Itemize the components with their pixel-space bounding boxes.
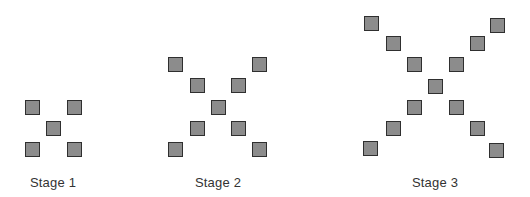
pattern-diagram: Stage 1 Stage 2 Stage 3 bbox=[0, 0, 530, 197]
stage-3-square bbox=[364, 16, 379, 31]
stage-3-square bbox=[470, 36, 485, 51]
stage-2-label: Stage 2 bbox=[195, 175, 241, 190]
stage-2-square bbox=[252, 57, 267, 72]
stage-2-square bbox=[190, 121, 205, 136]
stage-2-square bbox=[168, 57, 183, 72]
stage-1-square bbox=[25, 142, 40, 157]
stage-2-square bbox=[252, 142, 267, 157]
stage-3-square bbox=[449, 100, 464, 115]
stage-3-square bbox=[407, 57, 422, 72]
stage-2-square bbox=[190, 78, 205, 93]
stage-2-square bbox=[211, 100, 226, 115]
stage-2-square bbox=[168, 142, 183, 157]
stage-3-square bbox=[449, 57, 464, 72]
stage-3-square bbox=[407, 100, 422, 115]
stage-3-square bbox=[428, 79, 443, 94]
stage-3-square bbox=[386, 121, 401, 136]
stage-3-square bbox=[386, 36, 401, 51]
stage-1-square bbox=[46, 121, 61, 136]
stage-3-square bbox=[470, 121, 485, 136]
stage-3-label: Stage 3 bbox=[412, 175, 458, 190]
stage-3-square bbox=[490, 18, 505, 33]
stage-3-square bbox=[363, 141, 378, 156]
stage-2-square bbox=[231, 78, 246, 93]
stage-1-square bbox=[25, 100, 40, 115]
stage-1-square bbox=[67, 142, 82, 157]
stage-2-square bbox=[231, 121, 246, 136]
stage-3-square bbox=[489, 143, 504, 158]
stage-1-label: Stage 1 bbox=[30, 175, 76, 190]
stage-1-square bbox=[67, 100, 82, 115]
